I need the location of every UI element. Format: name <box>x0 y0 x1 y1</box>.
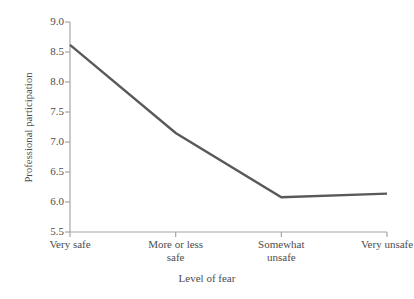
x-tick-label: Somewhatunsafe <box>221 238 341 264</box>
line-chart: Professional participation 9.08.58.07.57… <box>0 0 414 299</box>
x-axis-ticks <box>70 232 387 237</box>
data-series-line <box>70 45 387 197</box>
x-tick-label-line: Somewhat <box>221 238 341 251</box>
x-tick-label-line: Very unsafe <box>327 238 414 251</box>
y-axis-ticks <box>65 22 70 232</box>
x-tick-label-line: More or less <box>116 238 236 251</box>
x-tick-label: Very unsafe <box>327 238 414 251</box>
x-tick-label-line: safe <box>116 251 236 264</box>
x-axis-title: Level of fear <box>0 272 414 284</box>
axes <box>70 22 387 232</box>
x-tick-label: More or lesssafe <box>116 238 236 264</box>
x-tick-label-line: unsafe <box>221 251 341 264</box>
x-tick-label: Very safe <box>10 238 130 251</box>
x-tick-label-line: Very safe <box>10 238 130 251</box>
